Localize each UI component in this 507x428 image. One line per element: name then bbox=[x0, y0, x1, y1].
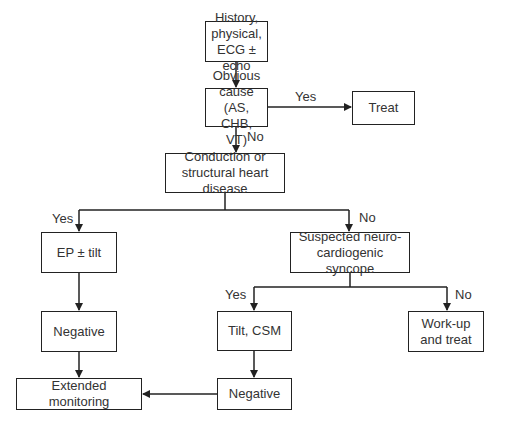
node-history-physical: History, physical, ECG ± echo bbox=[205, 21, 268, 62]
node-extended-monitoring-label: Extended monitoring bbox=[21, 378, 137, 410]
node-negative-right: Negative bbox=[217, 378, 292, 410]
node-treat: Treat bbox=[352, 91, 415, 125]
edge-label-conduction-no: No bbox=[359, 211, 376, 225]
node-conduction-disease-label: Conduction or structural heart disease bbox=[170, 149, 280, 197]
node-ep-tilt: EP ± tilt bbox=[41, 232, 117, 273]
edge-label-suspected-yes: Yes bbox=[225, 288, 246, 302]
edge-label-conduction-yes: Yes bbox=[52, 212, 73, 226]
node-tilt-csm: Tilt, CSM bbox=[217, 311, 292, 351]
node-conduction-disease: Conduction or structural heart disease bbox=[165, 153, 285, 193]
node-ep-tilt-label: EP ± tilt bbox=[57, 245, 101, 261]
edge-label-obvious-yes: Yes bbox=[295, 90, 316, 104]
node-negative-left: Negative bbox=[41, 311, 117, 352]
node-negative-left-label: Negative bbox=[53, 324, 104, 340]
node-suspected-syncope-label: Suspected neuro-cardiogenic syncope bbox=[295, 229, 405, 277]
node-tilt-csm-label: Tilt, CSM bbox=[228, 323, 281, 339]
node-workup-treat-label: Work-up and treat bbox=[413, 316, 479, 348]
node-extended-monitoring: Extended monitoring bbox=[16, 378, 142, 410]
node-obvious-cause: Obvious cause (AS, CHB, VT) bbox=[205, 88, 268, 127]
edge-label-obvious-no: No bbox=[247, 130, 264, 144]
node-negative-right-label: Negative bbox=[229, 386, 280, 402]
node-history-physical-label: History, physical, ECG ± echo bbox=[210, 10, 263, 74]
node-treat-label: Treat bbox=[369, 100, 399, 116]
node-suspected-syncope: Suspected neuro-cardiogenic syncope bbox=[290, 232, 410, 273]
node-workup-treat: Work-up and treat bbox=[408, 311, 484, 352]
edge-label-suspected-no: No bbox=[455, 288, 472, 302]
